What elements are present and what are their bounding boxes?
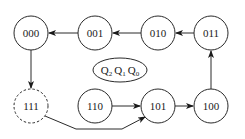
state-diagram: 000 001 010 011 111 110 101 100 [0, 0, 245, 139]
state-001: 001 [78, 16, 112, 50]
state-label: 001 [87, 27, 104, 39]
state-label: 100 [203, 100, 220, 112]
state-101: 101 [141, 89, 175, 123]
transitions [31, 33, 211, 129]
state-100: 100 [194, 89, 228, 123]
state-011: 011 [194, 16, 228, 50]
state-010: 010 [141, 16, 175, 50]
state-label: 010 [150, 27, 167, 39]
state-label: 101 [150, 100, 167, 112]
state-label: 111 [23, 100, 39, 112]
state-label: 011 [203, 27, 219, 39]
legend-vars: Q2Q1Q0 [101, 64, 140, 78]
state-variable-legend: Q2Q1Q0 [93, 58, 147, 82]
state-000: 000 [14, 16, 48, 50]
state-label: 110 [87, 100, 104, 112]
state-110: 110 [78, 89, 112, 123]
state-111: 111 [14, 89, 48, 123]
state-label: 000 [23, 27, 40, 39]
